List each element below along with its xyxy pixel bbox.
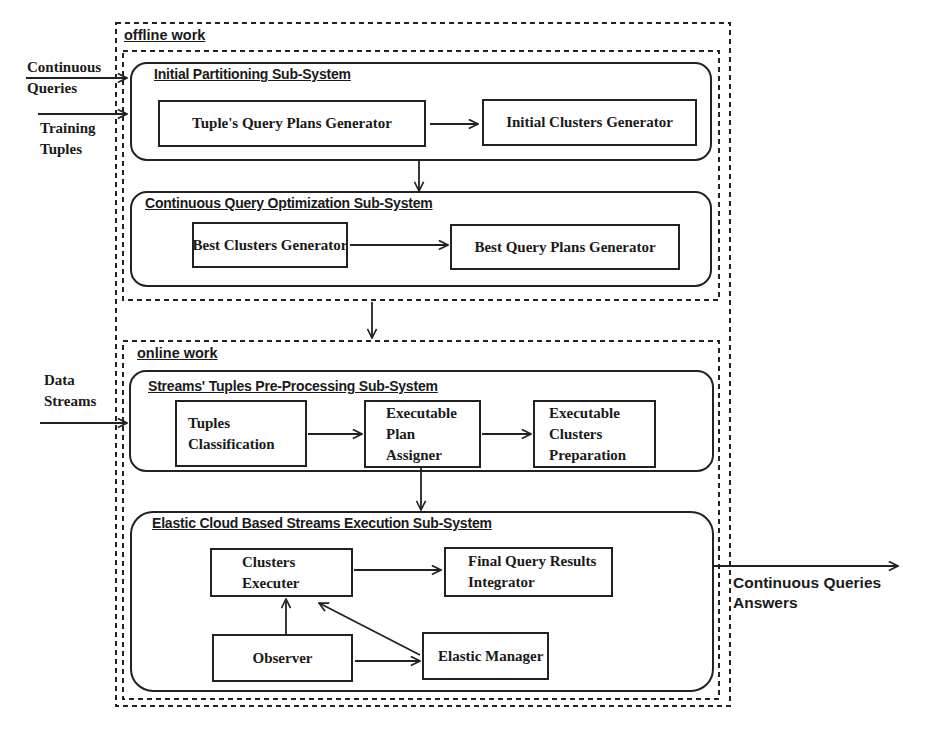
data-streams-label: Data Streams: [44, 370, 96, 412]
training-tuples-label: Training Tuples: [40, 118, 96, 160]
preprocessing-title: Streams' Tuples Pre-Processing Sub-Syste…: [148, 378, 438, 394]
executable-plan-assigner-box: Executable Plan Assigner: [364, 400, 481, 468]
tuples-query-plans-generator-box: Tuple's Query Plans Generator: [158, 100, 426, 147]
cq-optimization-title: Continuous Query Optimization Sub-System: [145, 195, 433, 211]
initial-partitioning-title: Initial Partitioning Sub-System: [154, 66, 351, 82]
observer-box: Observer: [212, 634, 353, 682]
tuples-classification-box: Tuples Classification: [175, 400, 307, 467]
best-clusters-generator-box: Best Clusters Generator: [192, 222, 348, 268]
architecture-diagram: offline work online work Initial Partiti…: [0, 0, 933, 732]
best-query-plans-generator-box: Best Query Plans Generator: [450, 224, 680, 270]
online-section-label: online work: [137, 345, 218, 361]
offline-section-label: offline work: [124, 27, 205, 43]
elastic-manager-box: Elastic Manager: [422, 632, 549, 680]
initial-clusters-generator-box: Initial Clusters Generator: [482, 99, 697, 146]
clusters-executer-box: Clusters Executer: [210, 548, 353, 597]
elastic-execution-title: Elastic Cloud Based Streams Execution Su…: [152, 515, 492, 531]
diagram-connectors: [0, 0, 933, 732]
final-query-results-integrator-box: Final Query Results Integrator: [444, 547, 613, 597]
continuous-queries-answers-label: Continuous Queries Answers: [733, 573, 881, 613]
continuous-queries-label: Continuous Queries: [27, 57, 101, 99]
executable-clusters-preparation-box: Executable Clusters Preparation: [533, 400, 656, 468]
